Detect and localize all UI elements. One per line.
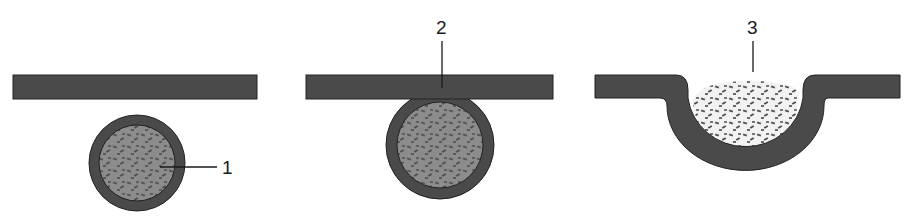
- stage-2: 2: [306, 17, 553, 199]
- membrane-bar: [306, 75, 553, 99]
- stage-3: 3: [595, 17, 900, 170]
- membrane-bar: [13, 75, 257, 99]
- stage-label-1: 1: [222, 157, 233, 178]
- stage-1: 1: [13, 75, 257, 211]
- exocytosis-diagram: 1 2 3: [0, 0, 917, 216]
- stage-label-3: 3: [747, 17, 758, 38]
- stage-label-2: 2: [436, 17, 447, 38]
- vesicle-content: [397, 102, 483, 188]
- vesicle-content: [99, 125, 175, 201]
